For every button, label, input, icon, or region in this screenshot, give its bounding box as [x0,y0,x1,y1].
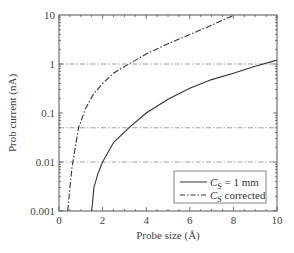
y-tick-labels: 0.0010.010.1110 [30,9,55,217]
y-tick-label: 10 [44,9,56,21]
y-tick-label: 0.001 [30,205,55,217]
x-axis-label: Probe size (Å) [136,229,200,242]
y-axis-label: Prob current (nA) [6,74,19,153]
y-tick-label: 0.1 [41,107,55,119]
x-tick-label: 6 [187,214,193,226]
x-tick-labels: 0246810 [56,214,283,226]
x-tick-label: 4 [143,214,149,226]
x-tick-label: 8 [231,214,237,226]
y-tick-label: 1 [50,58,56,70]
x-tick-label: 2 [100,214,106,226]
legend: CS = 1 mm CS corrected [174,171,266,204]
reference-lines [59,64,277,162]
probe-current-chart: 0246810 0.0010.010.1110 Probe size (Å) P… [0,0,294,253]
y-tick-label: 0.01 [36,156,55,168]
x-tick-label: 0 [56,214,62,226]
x-tick-label: 10 [272,214,284,226]
